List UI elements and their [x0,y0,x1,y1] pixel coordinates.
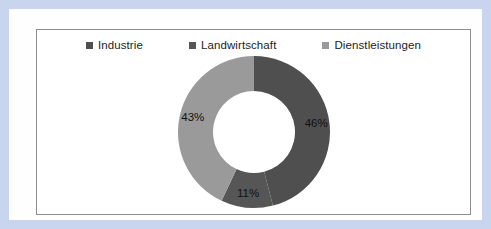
legend-item-industrie[interactable]: Industrie [86,39,143,52]
chart-legend: Industrie Landwirtschaft Dienstleistunge… [37,35,470,55]
donut-data-label-industrie: 46% [304,117,327,129]
donut-chart[interactable]: 46%11%43% [176,54,332,210]
legend-label-landwirtschaft: Landwirtschaft [201,39,277,52]
legend-item-dienstleistungen[interactable]: Dienstleistungen [322,39,421,52]
donut-svg: 46%11%43% [176,54,332,210]
legend-swatch-icon-landwirtschaft [189,42,196,49]
donut-data-label-landwirtschaft: 11% [237,187,259,199]
chart-area[interactable]: Industrie Landwirtschaft Dienstleistunge… [36,29,471,215]
page-background: Industrie Landwirtschaft Dienstleistunge… [9,9,482,220]
donut-slice-group [178,56,330,208]
legend-item-landwirtschaft[interactable]: Landwirtschaft [189,39,277,52]
legend-label-industrie: Industrie [98,39,143,52]
page-border: Industrie Landwirtschaft Dienstleistunge… [0,0,491,229]
legend-label-dienstleistungen: Dienstleistungen [334,39,421,52]
plot-area: 46%11%43% [37,54,470,214]
legend-swatch-icon-dienstleistungen [322,42,329,49]
legend-swatch-icon-industrie [86,42,93,49]
donut-data-label-dienstleistungen: 43% [181,111,204,123]
